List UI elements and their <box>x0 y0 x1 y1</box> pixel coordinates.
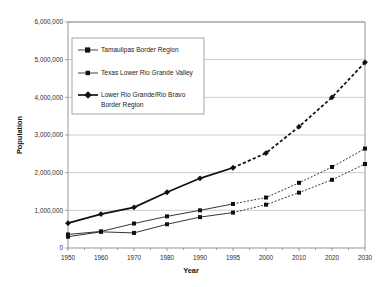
x-tick-label: 1995 <box>226 254 241 261</box>
x-tick-label: 1950 <box>61 254 76 261</box>
legend-label-3-line2: Border Region <box>101 101 144 109</box>
data-point-marker <box>297 181 301 185</box>
y-tick-label: 4,000,000 <box>35 94 64 101</box>
x-tick-label: 1980 <box>160 254 175 261</box>
y-tick-label: 6,000,000 <box>35 18 64 25</box>
data-point-marker <box>264 196 268 200</box>
legend-label-1: Tamaulipas Border Region <box>101 46 179 54</box>
data-point-marker <box>330 178 334 182</box>
x-tick-label: 2020 <box>325 254 340 261</box>
data-point-marker <box>297 191 301 195</box>
y-tick-label: 5,000,000 <box>35 56 64 63</box>
data-point-marker <box>231 211 235 215</box>
x-tick-label: 2010 <box>292 254 307 261</box>
y-tick-label: 3,000,000 <box>35 131 64 138</box>
chart-canvas: 01,000,0002,000,0003,000,0004,000,0005,0… <box>0 0 383 287</box>
y-tick-label: 1,000,000 <box>35 207 64 214</box>
chart-legend: Tamaulipas Border Region Texas Lower Rio… <box>72 38 204 114</box>
x-tick-label: 1970 <box>127 254 142 261</box>
data-point-marker <box>132 231 136 235</box>
data-point-marker <box>198 208 202 212</box>
x-tick-label: 2000 <box>259 254 274 261</box>
data-point-marker <box>330 165 334 169</box>
data-point-marker <box>99 229 103 233</box>
y-tick-label: 0 <box>59 244 63 251</box>
x-axis-title: Year <box>183 266 199 275</box>
legend-marker-square-2 <box>86 71 90 75</box>
x-tick-label: 1960 <box>94 254 109 261</box>
legend-marker-square-1 <box>85 47 90 52</box>
legend-label-3: Lower Rio Grande/Rio Bravo <box>101 91 186 98</box>
data-point-marker <box>231 202 235 206</box>
x-tick-label: 2030 <box>358 254 373 261</box>
data-point-marker <box>363 147 367 151</box>
data-point-marker <box>198 215 202 219</box>
data-point-marker <box>132 222 136 226</box>
data-point-marker <box>66 232 70 236</box>
y-axis-title: Population <box>15 115 24 154</box>
data-point-marker <box>165 214 169 218</box>
x-tick-label: 1990 <box>193 254 208 261</box>
legend-label-2: Texas Lower Rio Grande Valley <box>101 69 194 77</box>
data-point-marker <box>363 162 367 166</box>
data-point-marker <box>165 222 169 226</box>
y-tick-label: 2,000,000 <box>35 169 64 176</box>
population-line-chart: 01,000,0002,000,0003,000,0004,000,0005,0… <box>0 0 383 287</box>
data-point-marker <box>264 203 268 207</box>
